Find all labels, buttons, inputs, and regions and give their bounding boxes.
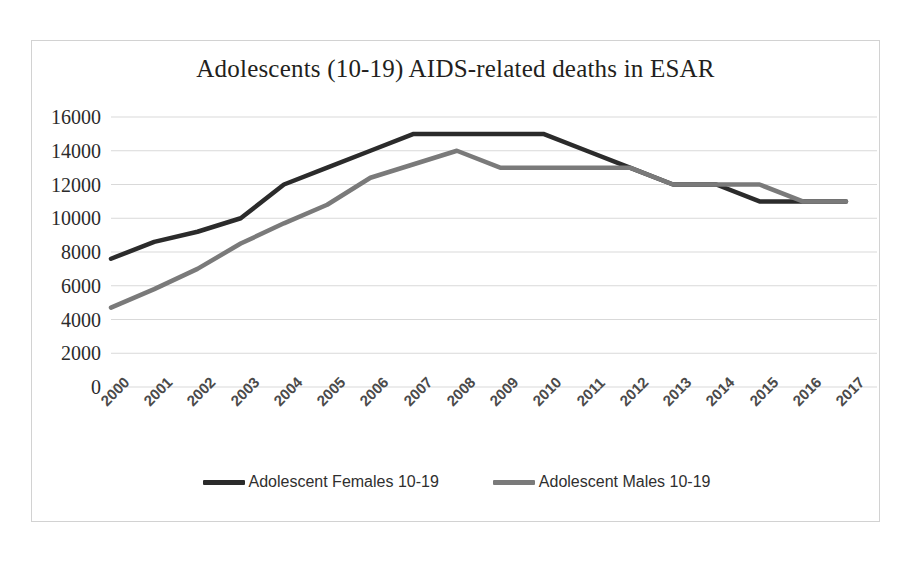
y-axis-tick-label: 0 <box>29 376 101 399</box>
y-axis-tick-label: 6000 <box>29 274 101 297</box>
plot-area: 0200040006000800010000120001400016000 20… <box>32 41 881 523</box>
legend-label: Adolescent Females 10-19 <box>249 473 439 491</box>
chart-svg <box>32 41 881 523</box>
series-line-females <box>111 134 846 259</box>
legend-item-males[interactable]: Adolescent Males 10-19 <box>493 473 711 491</box>
y-axis-tick-label: 8000 <box>29 241 101 264</box>
legend-label: Adolescent Males 10-19 <box>539 473 711 491</box>
y-axis-tick-label: 4000 <box>29 308 101 331</box>
y-axis-tick-label: 2000 <box>29 342 101 365</box>
legend-swatch <box>203 480 245 485</box>
legend-item-females[interactable]: Adolescent Females 10-19 <box>203 473 439 491</box>
y-axis-tick-label: 12000 <box>29 173 101 196</box>
y-axis-tick-label: 14000 <box>29 139 101 162</box>
series-line-males <box>111 151 846 308</box>
series-lines <box>111 134 846 308</box>
legend-swatch <box>493 480 535 485</box>
y-axis-tick-label: 10000 <box>29 207 101 230</box>
chart-legend: Adolescent Females 10-19Adolescent Males… <box>32 473 881 491</box>
chart-card: Adolescents (10-19) AIDS-related deaths … <box>31 40 880 522</box>
y-axis-tick-label: 16000 <box>29 106 101 129</box>
